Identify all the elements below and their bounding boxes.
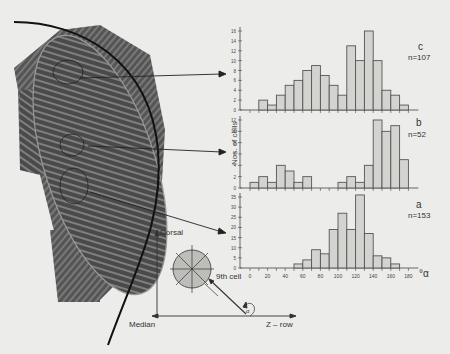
ninth-cell-label: 9th cell	[216, 272, 241, 281]
svg-text:140: 140	[369, 273, 378, 279]
svg-text:160: 160	[387, 273, 396, 279]
svg-text:0: 0	[233, 108, 236, 113]
svg-text:100: 100	[334, 273, 343, 279]
svg-text:35: 35	[231, 195, 237, 200]
n-label-a: n=153	[408, 211, 430, 220]
svg-text:2: 2	[233, 175, 236, 180]
panel-label-b: b	[416, 117, 422, 128]
histogram-b: 024681012	[231, 116, 418, 191]
svg-text:60: 60	[300, 273, 306, 279]
svg-text:40: 40	[282, 273, 288, 279]
z-row-label: Z – row	[266, 320, 293, 329]
svg-text:15: 15	[231, 236, 237, 241]
n-label-b: n=52	[408, 130, 426, 139]
svg-text:30: 30	[231, 205, 237, 210]
svg-text:120: 120	[351, 273, 360, 279]
svg-text:16: 16	[231, 29, 237, 34]
figure-page: 0246810121416 024681012 0510152025303502…	[0, 0, 450, 354]
micrograph-photo	[6, 20, 194, 311]
alpha-label: α	[246, 308, 249, 314]
svg-text:20: 20	[231, 225, 237, 230]
svg-text:0: 0	[249, 273, 252, 279]
svg-text:10: 10	[231, 59, 237, 64]
svg-text:4: 4	[233, 88, 236, 93]
svg-text:12: 12	[231, 49, 237, 54]
figure-svg: 0246810121416 024681012 0510152025303502…	[0, 0, 450, 354]
svg-text:25: 25	[231, 215, 237, 220]
svg-text:0: 0	[233, 266, 236, 271]
panel-label-c: c	[418, 41, 423, 52]
svg-text:14: 14	[231, 39, 237, 44]
svg-text:20: 20	[265, 273, 271, 279]
median-label: Median	[129, 320, 155, 329]
svg-text:8: 8	[233, 69, 236, 74]
histogram-a: 05101520253035020406080100120140160180	[231, 193, 418, 279]
svg-text:5: 5	[233, 256, 236, 261]
panel-label-a: a	[416, 199, 422, 210]
svg-text:2: 2	[233, 98, 236, 103]
histogram-c: 0246810121416	[231, 27, 418, 113]
svg-text:180: 180	[404, 273, 413, 279]
dorsal-label: Dorsal	[160, 228, 183, 237]
x-axis-unit: °α	[419, 268, 429, 279]
y-axis-label: Nos. of cells	[230, 121, 239, 165]
svg-text:10: 10	[231, 246, 237, 251]
svg-text:0: 0	[233, 186, 236, 191]
n-label-c: n=107	[408, 53, 430, 62]
svg-text:80: 80	[318, 273, 324, 279]
svg-text:6: 6	[233, 78, 236, 83]
